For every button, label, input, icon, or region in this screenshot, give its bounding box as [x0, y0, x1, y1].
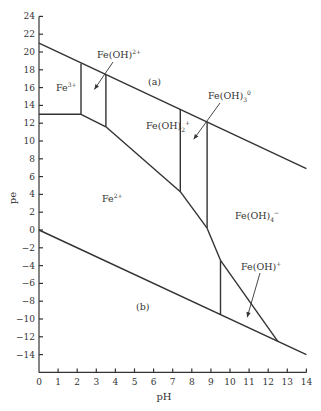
label-feoh2plus: Fe(OH)2+ — [97, 48, 141, 60]
x-tick-label: 12 — [262, 377, 273, 387]
x-tick-label: 14 — [301, 377, 313, 387]
y-tick-label: −4 — [22, 261, 36, 271]
label-fe3: Fe3+ — [56, 81, 77, 93]
y-tick-label: −8 — [22, 296, 36, 306]
y-tick-label: −12 — [16, 332, 35, 342]
y-tick-label: 16 — [24, 83, 36, 93]
y-tick-label: 12 — [24, 118, 35, 128]
y-tick-label: 22 — [24, 29, 35, 39]
axes: −14−12−10−8−6−4−202468101214161820222401… — [16, 11, 312, 387]
label-feoh2: Fe(OH)2+ — [146, 119, 190, 133]
boundary-line — [106, 127, 180, 192]
boundary-line — [180, 192, 207, 229]
x-tick-label: 3 — [93, 377, 99, 387]
chart-canvas: −14−12−10−8−6−4−202468101214161820222401… — [0, 0, 321, 411]
y-tick-label: 18 — [24, 65, 36, 75]
x-tick-label: 4 — [113, 377, 119, 387]
x-tick-label: 7 — [170, 377, 176, 387]
y-tick-label: 14 — [24, 100, 36, 110]
arrow-head-icon — [194, 134, 199, 139]
label-fe2: Fe2+ — [102, 192, 123, 204]
y-tick-label: −14 — [16, 350, 35, 360]
boundary-line — [39, 230, 306, 355]
x-axis-title: pH — [156, 391, 171, 402]
x-tick-label: 1 — [55, 377, 61, 387]
x-tick-label: 13 — [282, 377, 294, 387]
region-labels: Fe3+ Fe(OH)2+ (a) Fe(OH)2+ Fe(OH)30 Fe2+… — [7, 48, 281, 402]
label-b: (b) — [136, 301, 150, 312]
label-a: (a) — [148, 76, 161, 87]
y-tick-label: −6 — [22, 278, 36, 288]
y-tick-label: 20 — [24, 47, 36, 57]
y-tick-label: 0 — [29, 225, 35, 235]
label-feohplus: Fe(OH)+ — [241, 260, 281, 272]
pe-ph-diagram: −14−12−10−8−6−4−202468101214161820222401… — [0, 0, 321, 411]
y-tick-label: −2 — [22, 243, 35, 253]
x-tick-label: 0 — [36, 377, 42, 387]
x-tick-label: 6 — [151, 377, 157, 387]
y-tick-label: −10 — [16, 314, 35, 324]
boundary-line — [81, 114, 106, 127]
label-feoh4: Fe(OH)4− — [235, 209, 279, 223]
x-tick-label: 5 — [132, 377, 138, 387]
boundary-lines — [39, 43, 306, 355]
y-tick-label: 24 — [24, 11, 36, 21]
x-tick-label: 8 — [189, 377, 195, 387]
arrow-line — [247, 273, 260, 317]
y-tick-label: 8 — [29, 154, 35, 164]
boundary-line — [207, 228, 220, 260]
boundary-line — [221, 260, 278, 341]
boundary-line — [39, 43, 306, 169]
arrow-head-icon — [94, 84, 99, 89]
y-axis-title: pe — [7, 192, 18, 204]
x-tick-label: 10 — [224, 377, 236, 387]
x-tick-label: 9 — [208, 377, 214, 387]
arrow-head-icon — [247, 312, 251, 317]
label-feoh3: Fe(OH)30 — [208, 89, 251, 103]
y-tick-label: 6 — [29, 172, 35, 182]
y-tick-label: 10 — [24, 136, 36, 146]
x-tick-label: 2 — [74, 377, 80, 387]
y-tick-label: 4 — [29, 189, 35, 199]
y-tick-label: 2 — [29, 207, 35, 217]
x-tick-label: 11 — [243, 377, 254, 387]
